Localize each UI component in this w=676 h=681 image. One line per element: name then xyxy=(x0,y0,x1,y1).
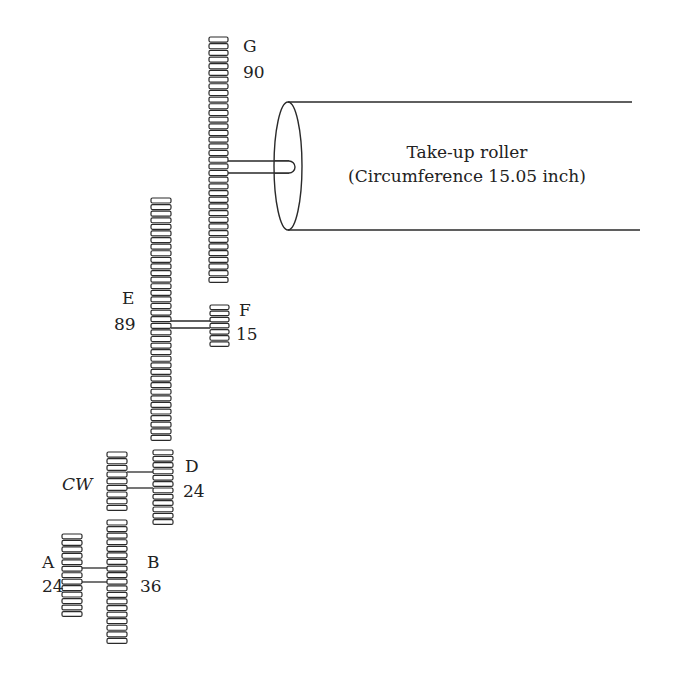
gear-tooth xyxy=(209,237,228,242)
gear-tooth xyxy=(62,560,82,565)
gear-tooth xyxy=(151,356,171,361)
gear-tooth xyxy=(153,475,173,480)
gear-tooth xyxy=(209,171,228,176)
gear-cw-label: CW xyxy=(62,474,94,494)
gear-a xyxy=(62,534,82,616)
gear-tooth xyxy=(62,586,82,591)
gear-tooth xyxy=(209,251,228,256)
gear-tooth xyxy=(107,520,127,525)
gear-tooth xyxy=(209,137,228,142)
gear-tooth xyxy=(151,231,171,236)
gear-e-teeth-count: 89 xyxy=(114,314,136,334)
gear-d-label: D xyxy=(185,456,199,476)
gear-tooth xyxy=(209,124,228,129)
gear-e xyxy=(151,198,171,440)
gear-tooth xyxy=(209,130,228,135)
gear-g-teeth-count: 90 xyxy=(243,62,265,82)
gear-tooth xyxy=(151,271,171,276)
gear-tooth xyxy=(151,396,171,401)
gear-tooth xyxy=(153,520,173,525)
gear-f xyxy=(210,305,229,346)
gear-f-label: F xyxy=(239,300,251,320)
gear-tooth xyxy=(151,264,171,269)
gear-tooth xyxy=(62,599,82,604)
gear-tooth xyxy=(210,336,229,341)
shafts-layer xyxy=(82,321,210,582)
gear-g xyxy=(209,37,228,282)
gear-tooth xyxy=(151,429,171,434)
gear-tooth xyxy=(107,533,127,538)
gear-tooth xyxy=(107,553,127,558)
roller-circumference-label: (Circumference 15.05 inch) xyxy=(348,166,586,186)
gear-tooth xyxy=(209,211,228,216)
gear-tooth xyxy=(209,37,228,42)
gear-d xyxy=(153,450,173,524)
gear-tooth xyxy=(209,271,228,276)
gear-b-teeth-count: 36 xyxy=(140,576,162,596)
gear-tooth xyxy=(209,224,228,229)
gear-tooth xyxy=(209,231,228,236)
gear-e-label: E xyxy=(122,288,134,308)
gear-tooth xyxy=(151,343,171,348)
gear-tooth xyxy=(209,97,228,102)
gear-tooth xyxy=(209,57,228,62)
gear-tooth xyxy=(107,527,127,532)
gear-tooth xyxy=(151,409,171,414)
gear-tooth xyxy=(107,586,127,591)
gear-tooth xyxy=(209,70,228,75)
gear-tooth xyxy=(151,422,171,427)
gear-tooth xyxy=(151,238,171,243)
gear-tooth xyxy=(209,110,228,115)
gear-tooth xyxy=(107,599,127,604)
gear-b-label: B xyxy=(147,552,160,572)
gear-tooth xyxy=(107,479,127,484)
gear-labels: A24B36CWD24E89F15G90 xyxy=(41,36,265,596)
gear-tooth xyxy=(209,84,228,89)
gear-tooth xyxy=(209,77,228,82)
roller-title: Take-up roller xyxy=(407,142,529,162)
gear-tooth xyxy=(107,573,127,578)
gear-tooth xyxy=(210,317,229,322)
gear-d-teeth-count: 24 xyxy=(183,481,205,501)
gear-a-label: A xyxy=(41,552,55,572)
gear-tooth xyxy=(209,197,228,202)
gear-tooth xyxy=(62,579,82,584)
gear-tooth xyxy=(209,90,228,95)
gear-tooth xyxy=(209,217,228,222)
gear-tooth xyxy=(151,257,171,262)
gear-tooth xyxy=(151,224,171,229)
gear-b xyxy=(107,520,127,643)
gear-tooth xyxy=(151,198,171,203)
gear-tooth xyxy=(107,579,127,584)
take-up-roller: Take-up roller (Circumference 15.05 inch… xyxy=(228,102,640,230)
gear-tooth xyxy=(209,264,228,269)
gear-tooth xyxy=(151,376,171,381)
gear-tooth xyxy=(62,547,82,552)
gear-tooth xyxy=(209,204,228,209)
gear-tooth xyxy=(153,507,173,512)
gear-tooth xyxy=(153,488,173,493)
gear-tooth xyxy=(107,465,127,470)
gear-tooth xyxy=(151,317,171,322)
gear-tooth xyxy=(209,257,228,262)
gear-tooth xyxy=(151,297,171,302)
gear-tooth xyxy=(151,310,171,315)
gear-tooth xyxy=(107,540,127,545)
gear-tooth xyxy=(151,218,171,223)
gear-tooth xyxy=(209,184,228,189)
gear-tooth xyxy=(153,450,173,455)
gear-tooth xyxy=(153,469,173,474)
gear-tooth xyxy=(151,389,171,394)
gear-tooth xyxy=(151,277,171,282)
gear-a-teeth-count: 24 xyxy=(42,576,64,596)
gear-tooth xyxy=(62,534,82,539)
gear-g-label: G xyxy=(243,36,257,56)
gear-tooth xyxy=(107,499,127,504)
gear-tooth xyxy=(107,612,127,617)
gear-tooth xyxy=(151,284,171,289)
gear-tooth xyxy=(62,573,82,578)
gear-tooth xyxy=(62,612,82,617)
gear-tooth xyxy=(62,592,82,597)
gear-tooth xyxy=(209,157,228,162)
gear-train-diagram: Take-up roller (Circumference 15.05 inch… xyxy=(0,0,676,681)
